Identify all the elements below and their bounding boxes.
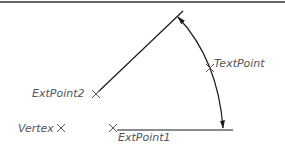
extpoint2-label: ExtPoint2 (32, 87, 84, 100)
vertex-label: Vertex (18, 122, 54, 135)
vertex-marker-icon (57, 124, 65, 132)
textpoint-label: TextPoint (214, 57, 265, 70)
extpoint2-marker-icon (92, 90, 100, 98)
extension-line-2 (98, 11, 183, 92)
extpoint1-marker-icon (109, 124, 117, 132)
dimension-arc (178, 17, 223, 128)
textpoint-marker-icon (206, 64, 214, 72)
angular-dimension-diagram: Vertex ExtPoint1 ExtPoint2 TextPoint (0, 0, 285, 151)
extpoint1-label: ExtPoint1 (118, 131, 170, 144)
